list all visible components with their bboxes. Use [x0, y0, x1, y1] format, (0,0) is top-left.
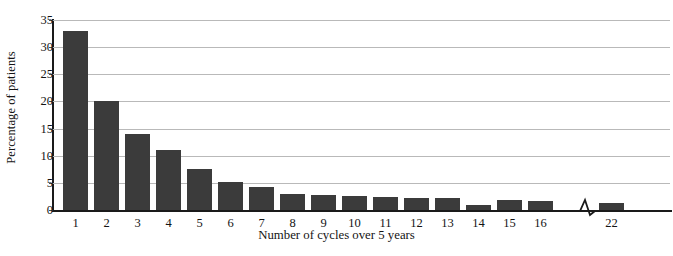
bar-chart-figure: Percentage of patients 05101520253035 12…: [0, 0, 673, 256]
gridline: [53, 101, 670, 102]
y-tick-labels-group: 05101520253035: [0, 20, 53, 210]
y-axis-tick-label: 5: [7, 175, 53, 190]
bar: [125, 134, 150, 210]
bar: [63, 31, 88, 210]
plot-area: 05101520253035 1234567891011121314151622: [53, 20, 670, 210]
bar: [280, 194, 305, 210]
y-axis-tick-label: 30: [7, 40, 53, 55]
x-axis-title: Number of cycles over 5 years: [0, 228, 673, 243]
gridline: [53, 20, 670, 21]
axis-break-zigzag-icon: [569, 196, 603, 218]
bar: [497, 200, 522, 210]
y-axis-tick-label: 20: [7, 94, 53, 109]
y-axis-tick-label: 35: [7, 13, 53, 28]
bar: [187, 169, 212, 210]
bar: [311, 195, 336, 210]
bar: [218, 182, 243, 210]
gridline: [53, 74, 670, 75]
gridline: [53, 129, 670, 130]
bar: [373, 197, 398, 210]
y-axis-tick-label: 25: [7, 67, 53, 82]
bar: [156, 150, 181, 210]
bar: [249, 187, 274, 210]
bar: [466, 205, 491, 210]
y-axis-tick-label: 0: [7, 203, 53, 218]
y-axis-tick-label: 15: [7, 121, 53, 136]
bar: [404, 198, 429, 210]
bar: [528, 201, 553, 210]
bar: [94, 101, 119, 210]
gridline: [53, 47, 670, 48]
bar: [342, 196, 367, 210]
bar: [435, 198, 460, 210]
y-axis-tick-label: 10: [7, 148, 53, 163]
